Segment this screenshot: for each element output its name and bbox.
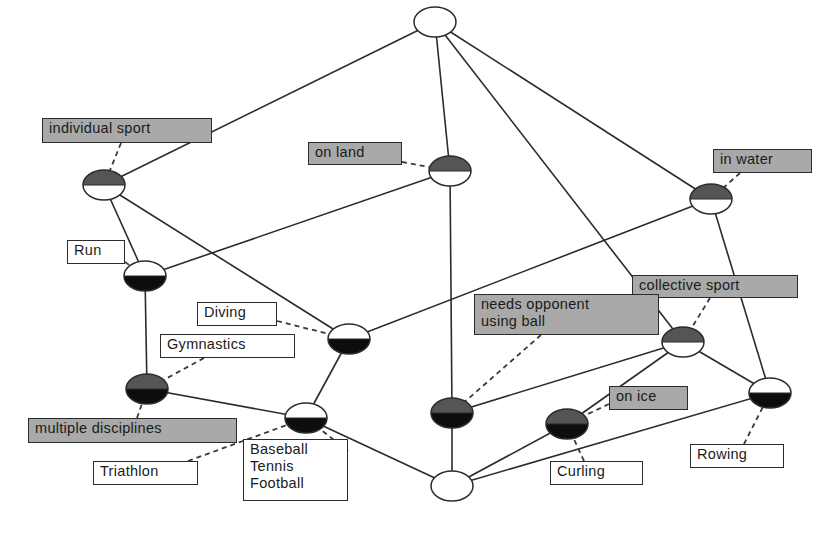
object-half-icon [749, 393, 791, 408]
node-on-land[interactable] [429, 156, 471, 186]
needs-opponent-label: needs opponent using ball [474, 294, 659, 335]
object-half-icon [431, 413, 473, 428]
edge-top-to-on-land [435, 22, 450, 171]
node-in-water[interactable] [690, 184, 732, 214]
edge-multiple-disciplines-to-baseball-tennis-football [147, 389, 306, 418]
object-half-icon [546, 424, 588, 439]
edge-collective-sport-to-on-ice [567, 342, 683, 424]
node-bottom[interactable] [431, 471, 473, 501]
attribute-half-icon [126, 374, 168, 389]
baseball-label: Baseball Tennis Football [243, 439, 348, 501]
node-top[interactable] [414, 7, 456, 37]
node-collective-sport[interactable] [662, 327, 704, 357]
on-ice-label: on ice [609, 386, 688, 410]
object-half-icon [328, 339, 370, 354]
diving-label: Diving [197, 302, 277, 326]
edge-top-to-in-water [435, 22, 711, 199]
edge-run-to-multiple-disciplines [145, 276, 147, 389]
node-rowing[interactable] [749, 378, 791, 408]
triathlon-label: Triathlon [93, 461, 198, 485]
node-baseball-tennis-football[interactable] [285, 403, 327, 433]
gymnastics-label: Gymnastics [160, 334, 295, 358]
on-land-label: on land [308, 142, 402, 165]
attribute-half-icon [429, 156, 471, 171]
edge-on-land-to-run [145, 171, 450, 276]
curling-label: Curling [550, 461, 643, 485]
node-diving[interactable] [328, 324, 370, 354]
node-run[interactable] [124, 261, 166, 291]
object-half-icon [285, 418, 327, 433]
rowing-label: Rowing [690, 444, 784, 468]
attribute-half-icon [431, 398, 473, 413]
edge-on-land-to-needs-opponent [450, 171, 452, 413]
node-multiple-disciplines[interactable] [126, 374, 168, 404]
node-individual-sport[interactable] [83, 170, 125, 200]
in-water-label: in water [713, 149, 812, 173]
attribute-half-icon [662, 327, 704, 342]
run-label: Run [67, 240, 125, 264]
object-half-icon [126, 389, 168, 404]
individual-sport-label: individual sport [42, 118, 212, 143]
object-half-icon [124, 276, 166, 291]
node-on-ice[interactable] [546, 409, 588, 439]
node-needs-opponent[interactable] [431, 398, 473, 428]
multiple-disciplines-label: multiple disciplines [28, 418, 237, 443]
attribute-half-icon [83, 170, 125, 185]
attribute-half-icon [546, 409, 588, 424]
